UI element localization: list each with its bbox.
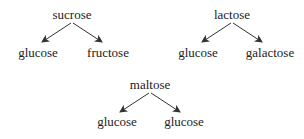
- sucrose-arrow-right: [73, 23, 102, 42]
- lactose-group: lactose glucose galactose: [178, 7, 294, 60]
- disaccharide-diagram: sucrose glucose fructose lactose glucose…: [0, 0, 304, 139]
- maltose-parent-label: maltose: [130, 77, 171, 92]
- maltose-arrow-left: [120, 93, 149, 112]
- lactose-child-right-label: galactose: [246, 45, 295, 60]
- maltose-arrow-right: [151, 93, 180, 112]
- sucrose-arrow-left: [42, 23, 71, 42]
- maltose-group: maltose glucose glucose: [97, 77, 204, 129]
- maltose-child-left-label: glucose: [97, 114, 137, 129]
- sucrose-child-right-label: fructose: [87, 45, 129, 60]
- lactose-arrow-right: [233, 23, 262, 42]
- lactose-arrow-left: [202, 23, 231, 42]
- lactose-parent-label: lactose: [214, 7, 250, 22]
- lactose-child-left-label: glucose: [178, 45, 218, 60]
- sucrose-parent-label: sucrose: [53, 7, 92, 22]
- sucrose-child-left-label: glucose: [18, 45, 58, 60]
- maltose-child-right-label: glucose: [164, 114, 204, 129]
- sucrose-group: sucrose glucose fructose: [18, 7, 129, 60]
